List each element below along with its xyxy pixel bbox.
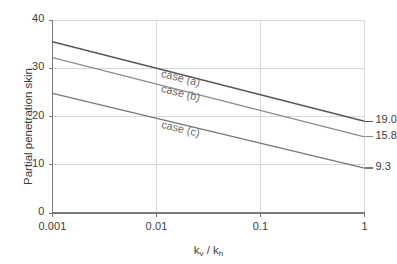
x-tick-label-0-001: 0.001 bbox=[23, 220, 83, 232]
gridlines bbox=[53, 20, 365, 213]
curve-case-c bbox=[53, 93, 365, 168]
end-value-label-case-a: 19.0 bbox=[376, 113, 397, 125]
tick-marks bbox=[49, 20, 365, 217]
x-tick-label-0-1: 0.1 bbox=[231, 220, 291, 232]
y-tick-label-40: 40 bbox=[17, 12, 45, 24]
x-axis-title: kv / kh bbox=[159, 244, 259, 256]
end-value-label-case-c: 9.3 bbox=[376, 160, 391, 172]
chart-figure: 40 30 20 10 0 0.001 0.01 0.1 1 19.0 15.8… bbox=[0, 0, 397, 264]
y-tick-label-0: 0 bbox=[17, 205, 45, 217]
curve-case-a bbox=[53, 42, 365, 122]
data-curves bbox=[53, 42, 373, 168]
x-tick-label-0-01: 0.01 bbox=[127, 220, 187, 232]
curve-case-b bbox=[53, 58, 365, 137]
x-tick-label-1: 1 bbox=[335, 220, 395, 232]
end-value-label-case-b: 15.8 bbox=[376, 129, 397, 141]
y-axis-title: Partial penetration skin bbox=[22, 68, 34, 185]
